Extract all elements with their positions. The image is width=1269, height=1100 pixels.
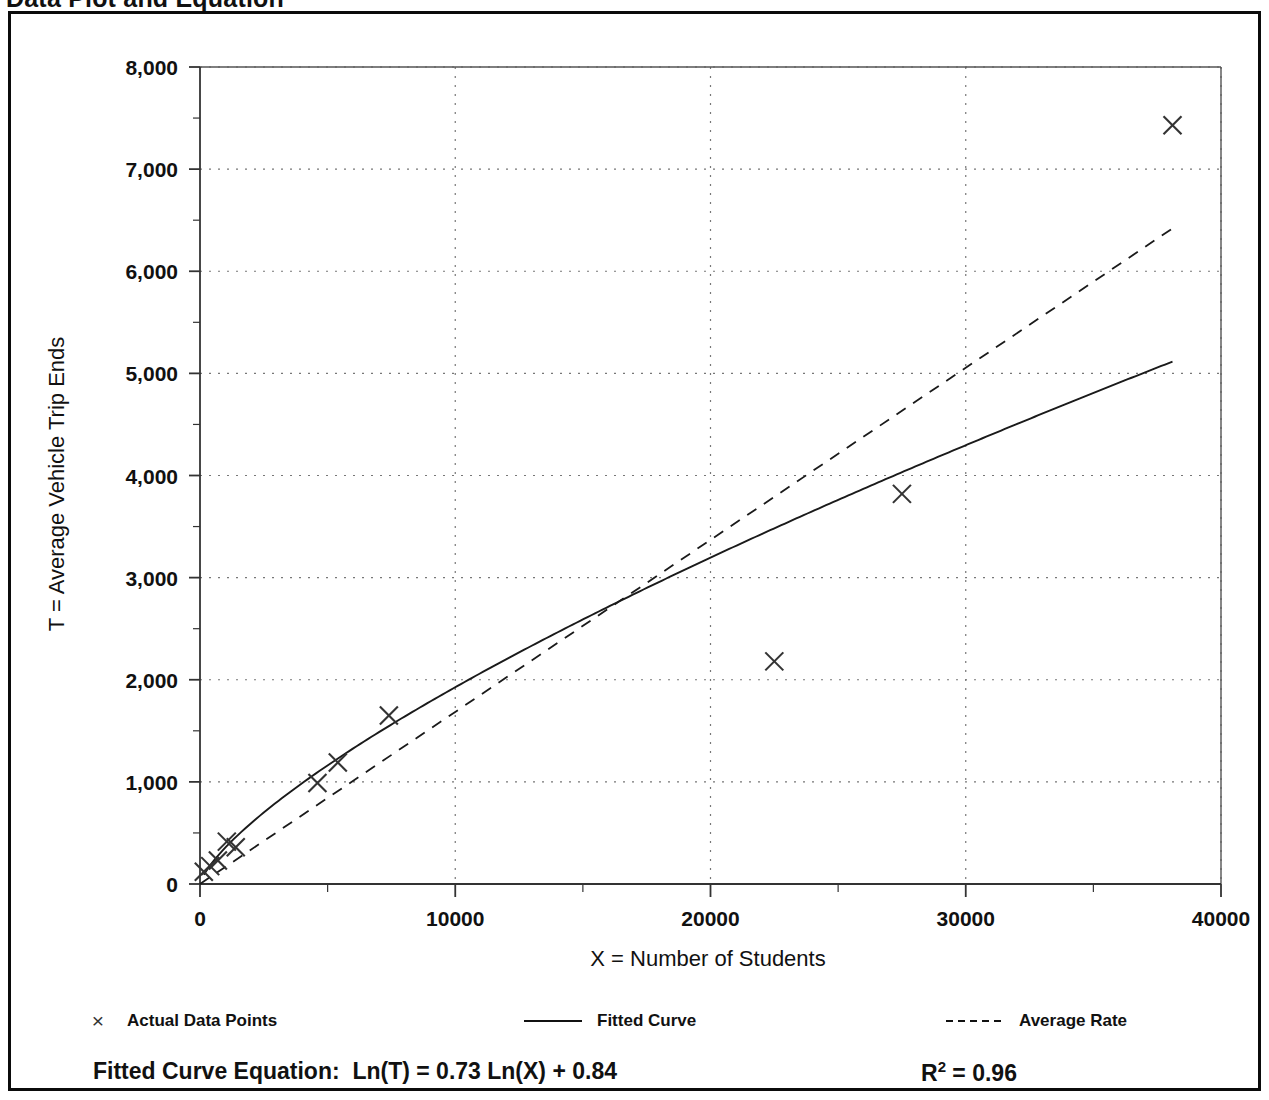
legend-item-fitted-curve: Fitted Curve: [523, 1006, 696, 1036]
x-marker-icon: ×: [83, 1009, 113, 1033]
data-point-marker: [308, 774, 326, 792]
axis-ticks: [189, 67, 1221, 897]
y-tick-label: 3,000: [125, 567, 178, 590]
data-point-marker: [380, 706, 398, 724]
x-tick-label: 20000: [681, 907, 739, 930]
fitted-curve-equation: Fitted Curve Equation: Ln(T) = 0.73 Ln(X…: [93, 1058, 617, 1085]
y-axis-tick-labels: 01,0002,0003,0004,0005,0006,0007,0008,00…: [125, 56, 178, 896]
data-point-marker: [209, 852, 227, 870]
data-point-marker: [765, 652, 783, 670]
x-axis-tick-labels: 010000200003000040000: [194, 907, 1250, 930]
solid-line-glyph: [523, 1016, 583, 1026]
y-tick-label: 1,000: [125, 771, 178, 794]
data-point-markers: [195, 116, 1182, 881]
legend-item-average-rate: Average Rate: [945, 1006, 1127, 1036]
data-point-marker: [218, 833, 236, 851]
x-tick-label: 10000: [426, 907, 484, 930]
legend-label-fitted-curve: Fitted Curve: [597, 1011, 696, 1031]
figure-frame: 01,0002,0003,0004,0005,0006,0007,0008,00…: [8, 11, 1261, 1091]
solid-line-icon: [523, 1016, 583, 1026]
y-tick-label: 6,000: [125, 260, 178, 283]
legend-item-actual-data-points: × Actual Data Points: [83, 1006, 277, 1036]
r-squared-base: R: [921, 1060, 938, 1086]
equation-label: Fitted Curve Equation:: [93, 1058, 340, 1084]
y-tick-label: 0: [166, 873, 178, 896]
chart-plot-area: 01,0002,0003,0004,0005,0006,0007,0008,00…: [11, 14, 1258, 999]
fitted-curve-line: [204, 362, 1173, 875]
chart-legend: × Actual Data Points Fitted Curve Averag…: [11, 1002, 1264, 1048]
x-tick-label: 30000: [937, 907, 995, 930]
equation-row: Fitted Curve Equation: Ln(T) = 0.73 Ln(X…: [11, 1058, 1264, 1098]
legend-label-actual-data-points: Actual Data Points: [127, 1011, 277, 1031]
r-squared-exponent: 2: [938, 1058, 946, 1075]
y-tick-label: 4,000: [125, 465, 178, 488]
y-axis-title: T = Average Vehicle Trip Ends: [44, 337, 69, 632]
y-tick-label: 5,000: [125, 362, 178, 385]
r-squared-value: R2 = 0.96: [921, 1058, 1017, 1087]
gridlines: [200, 67, 1221, 884]
y-tick-label: 8,000: [125, 56, 178, 79]
legend-label-average-rate: Average Rate: [1019, 1011, 1127, 1031]
dashed-line-icon: [945, 1016, 1005, 1026]
data-point-marker: [1164, 116, 1182, 134]
x-tick-label: 0: [194, 907, 206, 930]
x-axis-title: X = Number of Students: [590, 946, 825, 971]
data-point-marker: [893, 485, 911, 503]
data-point-marker: [227, 838, 245, 856]
r-squared-rest: = 0.96: [946, 1060, 1017, 1086]
dashed-line-glyph: [945, 1016, 1005, 1026]
y-tick-label: 2,000: [125, 669, 178, 692]
y-tick-label: 7,000: [125, 158, 178, 181]
equation-body: Ln(T) = 0.73 Ln(X) + 0.84: [352, 1058, 617, 1084]
x-tick-label: 40000: [1192, 907, 1250, 930]
average-rate-line: [200, 228, 1173, 884]
